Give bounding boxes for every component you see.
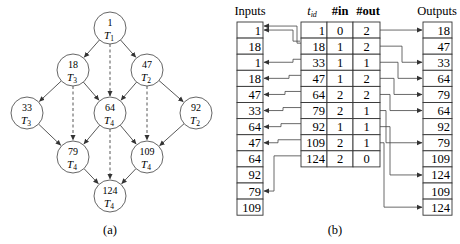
pointer-arrow	[380, 94, 422, 110]
input-value: 18	[249, 72, 262, 86]
out-value: 1	[363, 104, 369, 118]
input-value: 64	[249, 120, 262, 134]
pointer-arrow	[264, 75, 301, 78]
pointer-arrow	[264, 156, 301, 191]
out-value: 2	[363, 40, 369, 54]
task-node: 109T4	[131, 141, 163, 173]
output-value: 64	[438, 104, 451, 118]
pointer-arrow	[264, 91, 301, 94]
edge	[84, 125, 100, 144]
tid-value: 64	[313, 88, 326, 102]
table-row: 10921	[301, 135, 380, 151]
in-value: 1	[337, 120, 343, 134]
edge	[159, 81, 183, 102]
out-value: 0	[363, 152, 369, 166]
table-row: 3311	[301, 54, 380, 70]
edge	[84, 40, 99, 57]
input-value: 92	[249, 168, 262, 182]
in-value: 0	[337, 24, 343, 38]
in-value: 2	[337, 88, 343, 102]
out-value: 1	[363, 56, 369, 70]
input-value: 1	[255, 24, 261, 38]
pointer-arrow	[380, 78, 422, 94]
tid-value: 109	[306, 136, 325, 150]
edge	[83, 82, 98, 100]
out-value: 1	[363, 136, 369, 150]
pointer-arrow	[380, 46, 422, 62]
output-value: 33	[438, 56, 451, 70]
task-node: 1T1	[94, 12, 126, 44]
table-row: 12420	[301, 151, 380, 167]
tid-value: 18	[313, 40, 326, 54]
tid-value: 92	[313, 120, 326, 134]
node-id: 124	[103, 185, 118, 196]
tid-value: 1	[319, 24, 325, 38]
output-value: 79	[438, 88, 451, 102]
input-value: 64	[249, 152, 262, 166]
task-node: 18T3	[57, 54, 89, 86]
node-id: 1	[108, 17, 113, 28]
in-value: 1	[337, 56, 343, 70]
in-value: 2	[337, 136, 343, 150]
edge	[39, 81, 61, 101]
edge	[122, 169, 136, 184]
inputs-label: Inputs	[234, 4, 265, 18]
table-row: 7921	[301, 103, 380, 119]
edge	[84, 169, 98, 184]
edge	[39, 124, 61, 145]
pointer-arrow	[380, 62, 422, 78]
caption-a: (a)	[103, 223, 117, 237]
dag-diagram: 1T118T347T233T364T492T279T4109T4124T4(a)	[11, 12, 212, 237]
tid-value: 47	[313, 72, 326, 86]
task-node: 92T2	[180, 97, 212, 129]
node-id: 79	[68, 146, 78, 157]
output-value: 18	[438, 24, 451, 38]
pointer-arrow	[264, 140, 301, 143]
node-id: 47	[142, 59, 152, 70]
task-node: 47T2	[131, 54, 163, 86]
pointer-arrow	[264, 108, 301, 111]
edge	[160, 124, 184, 146]
output-value: 64	[438, 72, 451, 86]
output-value: 124	[431, 168, 451, 182]
caption-b: (b)	[328, 223, 343, 237]
input-value: 47	[249, 88, 262, 102]
input-value: 18	[249, 40, 262, 54]
task-node: 79T4	[57, 141, 89, 173]
in-value: 1	[337, 72, 343, 86]
input-value: 1	[255, 56, 261, 70]
table-row: 102	[301, 22, 380, 38]
in-value: 2	[337, 104, 343, 118]
output-value: 109	[431, 185, 450, 199]
pointer-arrow	[264, 59, 301, 62]
output-value: 109	[431, 152, 450, 166]
task-graph-figure: 1T118T347T233T364T492T279T4109T4124T4(a)…	[0, 0, 460, 244]
input-value: 47	[249, 136, 262, 150]
out-value: 1	[363, 120, 369, 134]
tid-value: 33	[313, 56, 326, 70]
out-value: 2	[363, 72, 369, 86]
outputs-label: Outputs	[417, 4, 457, 18]
out-header: #out	[356, 4, 380, 18]
table-row: 4712	[301, 70, 380, 86]
node-id: 33	[22, 102, 32, 113]
task-table-diagram: Inputs11811847336447649279109tid#in#out1…	[234, 4, 457, 237]
out-value: 2	[363, 88, 369, 102]
output-value: 79	[438, 136, 451, 150]
in-value: 2	[337, 152, 343, 166]
input-value: 79	[249, 185, 262, 199]
edge	[120, 125, 136, 144]
table-row: 1812	[301, 38, 380, 54]
table-row: 6422	[301, 86, 380, 102]
tid-header: tid	[307, 4, 318, 19]
node-id: 109	[140, 146, 155, 157]
pointer-arrow	[264, 124, 301, 127]
node-id: 92	[191, 102, 201, 113]
tid-value: 79	[313, 104, 326, 118]
in-header: #in	[332, 4, 349, 18]
tid-value: 124	[306, 152, 326, 166]
edge	[121, 82, 136, 100]
task-node: 124T4	[94, 180, 126, 212]
out-value: 2	[363, 24, 369, 38]
input-value: 109	[242, 201, 261, 215]
